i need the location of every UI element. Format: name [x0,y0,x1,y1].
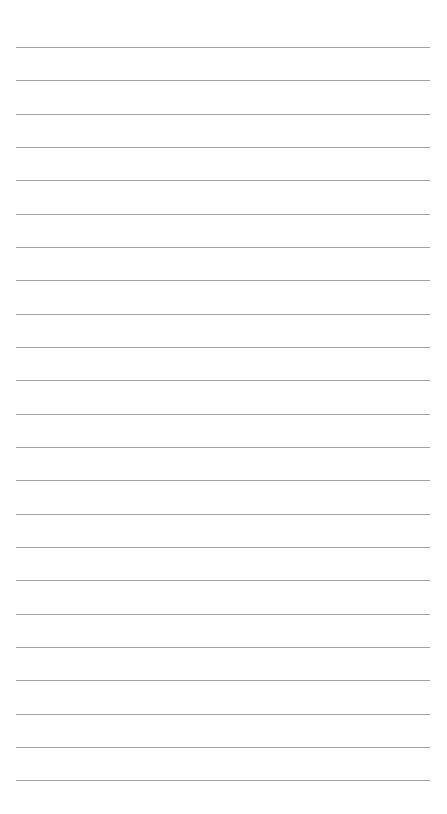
ruled-line [16,280,430,281]
ruled-line [16,414,430,415]
ruled-line [16,147,430,148]
ruled-line [16,214,430,215]
ruled-line [16,347,430,348]
ruled-line [16,314,430,315]
ruled-line [16,747,430,748]
ruled-line [16,447,430,448]
ruled-line [16,380,430,381]
ruled-line [16,714,430,715]
ruled-line [16,480,430,481]
ruled-line [16,514,430,515]
ruled-line [16,580,430,581]
ruled-line [16,647,430,648]
ruled-line [16,614,430,615]
ruled-line [16,80,430,81]
ruled-line [16,180,430,181]
ruled-line [16,114,430,115]
ruled-line [16,247,430,248]
ruled-line [16,780,430,781]
lined-page [0,0,447,814]
ruled-line [16,47,430,48]
ruled-line [16,547,430,548]
ruled-line [16,680,430,681]
